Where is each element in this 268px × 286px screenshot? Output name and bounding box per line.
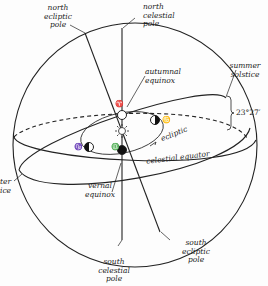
earth-winter-icon <box>85 143 94 152</box>
label-south-celestial-pole: south celestial pole <box>92 258 136 284</box>
pointer-sep <box>161 232 170 240</box>
label-north-celestial-pole: north celestial pole <box>143 3 193 29</box>
pointer-autumnal <box>127 76 145 107</box>
sphere-drawing <box>0 0 268 286</box>
capricorn-symbol: ♑ <box>74 143 83 152</box>
libra-symbol: ♎ <box>111 143 120 152</box>
cancer-symbol: ♋ <box>162 116 171 125</box>
label-autumnal-equinox: autumnal equinox <box>145 68 195 85</box>
celestial-equator-back <box>14 113 248 140</box>
earth-summer-icon <box>151 116 160 125</box>
label-south-ecliptic-pole: south ecliptic pole <box>176 239 216 265</box>
label-summer-solstice: summer solstice <box>222 62 268 79</box>
label-north-ecliptic-pole: north ecliptic pole <box>38 4 78 30</box>
earth-autumnal-icon <box>118 111 127 120</box>
label-winter-solstice: ter ice <box>0 178 20 195</box>
pointer-scp <box>118 240 122 246</box>
aries-symbol: ♈ <box>115 100 124 109</box>
label-vernal-equinox: vernal equinox <box>80 182 120 199</box>
label-obliquity: 23°27′ <box>236 109 268 118</box>
celestial-sphere-diagram: ♈ ♋ ♑ ♎ north ecliptic pole north celest… <box>0 0 268 286</box>
